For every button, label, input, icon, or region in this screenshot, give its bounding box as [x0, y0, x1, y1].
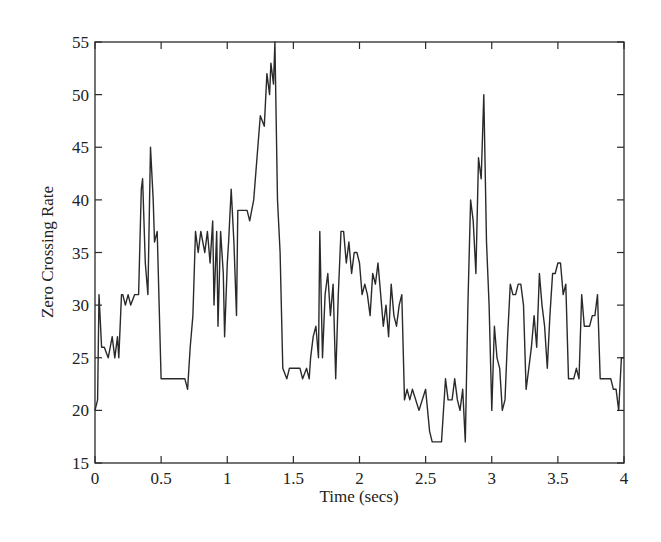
y-tick-label: 30: [72, 296, 89, 315]
y-tick-label: 20: [72, 401, 89, 420]
x-tick-label: 1: [223, 469, 232, 488]
x-axis-tick-labels: 00.511.522.533.54: [91, 469, 629, 488]
x-tick-label: 2.5: [415, 469, 436, 488]
x-tick-label: 2: [355, 469, 364, 488]
x-tick-label: 0.5: [151, 469, 172, 488]
y-tick-label: 55: [72, 33, 89, 52]
x-tick-label: 3.5: [547, 469, 568, 488]
zero-crossing-rate-line: [95, 42, 624, 442]
plot-border: [95, 42, 624, 463]
plot-frame: [95, 42, 624, 463]
y-axis-ticks: [95, 42, 624, 463]
y-tick-label: 25: [72, 349, 89, 368]
zero-crossing-rate-chart: 00.511.522.533.54 152025303540455055 Tim…: [0, 0, 661, 542]
y-axis-tick-labels: 152025303540455055: [72, 33, 89, 473]
x-tick-label: 1.5: [283, 469, 304, 488]
y-axis-title: Zero Crossing Rate: [38, 186, 57, 318]
y-tick-label: 35: [72, 244, 89, 263]
y-tick-label: 50: [72, 86, 89, 105]
y-tick-label: 15: [72, 454, 89, 473]
x-axis-title: Time (secs): [319, 487, 398, 506]
x-tick-label: 0: [91, 469, 100, 488]
x-axis-ticks: [95, 42, 624, 463]
y-tick-label: 40: [72, 191, 89, 210]
y-tick-label: 45: [72, 138, 89, 157]
x-tick-label: 4: [620, 469, 629, 488]
x-tick-label: 3: [488, 469, 497, 488]
